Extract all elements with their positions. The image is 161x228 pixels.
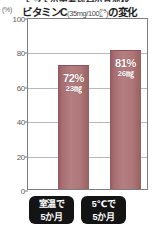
y-axis-tick-mark [25, 191, 28, 192]
category-label-line: 5℃で [92, 198, 116, 211]
bar-amount-value: 26㎎ [115, 69, 136, 79]
y-axis-tick-mark [25, 122, 28, 123]
bar-percent-value: 72% [63, 72, 84, 84]
page-title: ビタミンC(35mg/100㌘)の変化 [22, 4, 137, 19]
y-axis-tick-mark [25, 53, 28, 54]
y-axis-unit-label: (%) [2, 6, 12, 13]
y-axis-tick-label: 80 [17, 49, 25, 58]
bar: 81%26㎎ [110, 50, 141, 189]
title-main-text: ビタミンC [22, 6, 67, 18]
y-axis-tick-label: 20 [17, 152, 25, 161]
y-axis-tick-label: 40 [17, 118, 25, 127]
y-axis-tick-label: 0 [21, 187, 25, 196]
title-parenthetical: (35mg/100㌘) [67, 9, 108, 18]
bar-amount-value: 23㎎ [63, 84, 84, 94]
bar-value-label: 72%23㎎ [63, 72, 84, 94]
plot-area: 02040608010072%23㎎81%26㎎ [27, 18, 148, 190]
chart-figure: トマトの栄養成分の月変化 (%) ビタミンC(35mg/100㌘)の変化 020… [0, 0, 161, 228]
category-label-line: 5か月 [41, 211, 63, 224]
y-axis-tick-mark [25, 156, 28, 157]
category-label-line: 室温で [39, 198, 65, 211]
bar-percent-value: 81% [115, 57, 136, 69]
clipped-heading-above: トマトの栄養成分の月変化 [24, 0, 140, 2]
category-label-line: 5か月 [93, 211, 115, 224]
x-axis-category-label: 5℃で5か月 [81, 196, 126, 224]
bar: 72%23㎎ [58, 65, 89, 189]
x-axis-category-label: 室温で5か月 [29, 196, 74, 224]
bar-value-label: 81%26㎎ [115, 57, 136, 79]
y-axis-tick-label: 60 [17, 83, 25, 92]
y-axis-tick-label: 100 [13, 15, 25, 24]
y-axis-tick-mark [25, 87, 28, 88]
title-suffix: の変化 [108, 6, 137, 18]
y-axis-tick-mark [25, 19, 28, 20]
